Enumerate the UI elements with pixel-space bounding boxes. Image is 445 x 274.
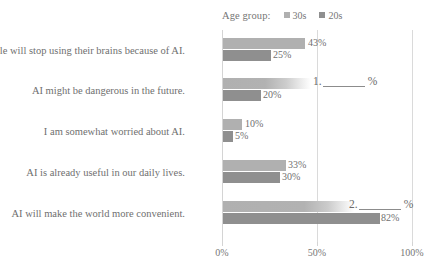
legend-swatch-20s xyxy=(319,12,325,18)
bar-30s-5-faded xyxy=(223,201,354,212)
bar-20s-5 xyxy=(223,213,380,224)
bar-value-20s-1: 25% xyxy=(273,49,291,61)
bar-row-30s-5: 2. % xyxy=(223,201,413,212)
bar-chart: Age group: 30s 20s People will stop usin… xyxy=(0,0,445,274)
blank-percent-sign-2: % xyxy=(404,198,414,211)
category-label-5: AI will make the world more convenient. xyxy=(12,208,186,220)
bar-row-20s-4: 30% xyxy=(223,172,413,183)
blank-percent-sign-1: % xyxy=(368,75,378,88)
blank-answer-1: 1. % xyxy=(313,75,377,88)
legend-label-30s: 30s xyxy=(293,10,307,21)
bar-value-30s-3: 10% xyxy=(245,118,263,130)
category-group-5: AI will make the world more convenient. … xyxy=(223,201,413,224)
bar-value-20s-3: 5% xyxy=(235,130,248,142)
bar-20s-2 xyxy=(223,90,261,101)
bar-value-30s-1: 43% xyxy=(308,37,326,49)
legend-label-20s: 20s xyxy=(328,10,342,21)
bar-row-20s-5: 82% xyxy=(223,213,413,224)
bar-30s-4 xyxy=(223,160,286,171)
bar-value-30s-4: 33% xyxy=(288,159,306,171)
legend-entry-30s: 30s xyxy=(284,10,307,21)
x-tick-0 xyxy=(222,242,223,246)
bar-value-20s-2: 20% xyxy=(263,89,281,101)
legend-title: Age group: xyxy=(222,10,271,21)
bar-20s-4 xyxy=(223,172,280,183)
bar-row-20s-2: 20% xyxy=(223,90,413,101)
bar-30s-2-faded xyxy=(223,78,311,89)
category-label-4: AI is already useful in our daily lives. xyxy=(26,167,185,179)
bar-row-30s-3: 10% xyxy=(223,119,413,130)
x-tick-label-0: 0% xyxy=(215,247,228,258)
category-group-1: People will stop using their brains beca… xyxy=(223,38,413,61)
x-axis: 0% 50% 100% xyxy=(222,242,413,262)
bar-20s-3 xyxy=(223,131,233,142)
bar-row-30s-2: 1. % xyxy=(223,78,413,89)
bar-30s-1 xyxy=(223,38,305,49)
blank-number-2: 2. xyxy=(349,198,358,211)
x-tick-50 xyxy=(317,242,318,246)
bar-row-30s-4: 33% xyxy=(223,160,413,171)
category-group-2: AI might be dangerous in the future. 1. … xyxy=(223,78,413,101)
x-tick-label-50: 50% xyxy=(308,247,326,258)
bar-value-20s-4: 30% xyxy=(282,171,300,183)
category-label-2: AI might be dangerous in the future. xyxy=(32,85,185,97)
bar-20s-1 xyxy=(223,50,271,61)
category-group-3: I am somewhat worried about AI. 10% 5% xyxy=(223,119,413,142)
bar-30s-3 xyxy=(223,119,242,130)
blank-rule-2 xyxy=(359,199,401,210)
legend-entry-20s: 20s xyxy=(319,10,342,21)
blank-rule-1 xyxy=(323,76,365,87)
bar-row-20s-3: 5% xyxy=(223,131,413,142)
blank-number-1: 1. xyxy=(313,75,322,88)
chart-legend: Age group: 30s 20s xyxy=(222,6,342,24)
category-group-4: AI is already useful in our daily lives.… xyxy=(223,160,413,183)
x-tick-100 xyxy=(412,242,413,246)
plot-area: People will stop using their brains beca… xyxy=(222,30,413,242)
bar-row-20s-1: 25% xyxy=(223,50,413,61)
bar-value-20s-5: 82% xyxy=(381,212,399,224)
blank-answer-2: 2. % xyxy=(349,198,413,211)
category-label-3: I am somewhat worried about AI. xyxy=(44,126,185,138)
bar-row-30s-1: 43% xyxy=(223,38,413,49)
legend-swatch-30s xyxy=(284,12,290,18)
x-tick-label-100: 100% xyxy=(400,247,423,258)
category-label-1: People will stop using their brains beca… xyxy=(0,45,185,57)
